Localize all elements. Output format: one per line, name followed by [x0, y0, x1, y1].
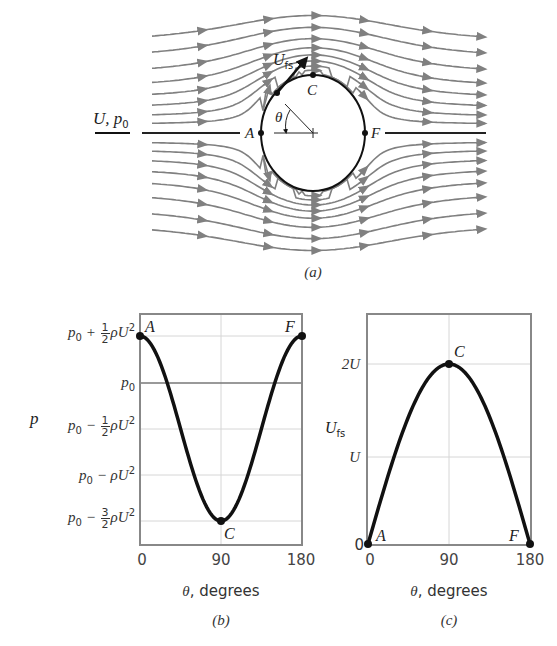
- pressure-curve: [140, 336, 302, 521]
- flow-direction-arrow-icon: [359, 56, 365, 58]
- flow-direction-arrow-icon: [263, 45, 269, 47]
- velocity-xtick-180: 180: [516, 551, 545, 569]
- velocity-xtick-0: 0: [365, 551, 375, 569]
- flow-direction-arrow-icon: [359, 32, 365, 33]
- point-a-marker: [258, 130, 264, 136]
- streamline-diagram: [0, 0, 557, 300]
- flow-direction-arrow-icon: [197, 154, 203, 155]
- pressure-xtick-90: 90: [211, 551, 230, 569]
- surface-point-marker: [274, 90, 280, 96]
- pressure-plot-grid: [140, 314, 302, 545]
- flow-direction-arrow-icon: [359, 19, 365, 20]
- pressure-ytick-0: p0 + 12ρU2: [68, 322, 135, 345]
- pressure-ytick-1: p0: [121, 374, 135, 393]
- flow-direction-arrow-icon: [422, 164, 428, 165]
- flow-direction-arrow-icon: [359, 179, 365, 184]
- flow-direction-arrow-icon: [263, 81, 269, 85]
- flow-direction-arrow-icon: [263, 56, 269, 58]
- flow-direction-arrow-icon: [197, 235, 203, 236]
- pressure-point-f-label: F: [285, 318, 295, 336]
- flow-direction-arrow-icon: [359, 198, 365, 201]
- flow-direction-arrow-icon: [422, 101, 428, 102]
- flow-direction-arrow-icon: [422, 219, 428, 220]
- flow-direction-arrow-icon: [197, 188, 203, 189]
- flow-direction-arrow-icon: [197, 77, 203, 78]
- velocity-ytick-u: U: [349, 449, 360, 466]
- flow-direction-arrow-icon: [422, 46, 428, 47]
- flow-direction-arrow-icon: [359, 74, 365, 77]
- flow-direction-arrow-icon: [422, 189, 428, 190]
- flow-direction-arrow-icon: [422, 112, 428, 113]
- flow-direction-arrow-icon: [263, 233, 269, 234]
- flow-direction-arrow-icon: [359, 246, 365, 247]
- flow-direction-arrow-icon: [422, 30, 428, 31]
- velocity-ytick-0: 0: [354, 536, 364, 554]
- velocity-point-c: [445, 360, 453, 368]
- velocity-axis-label: Ufs: [325, 420, 345, 439]
- velocity-point-f-label: F: [509, 527, 519, 545]
- pressure-axis-label: p: [30, 410, 39, 427]
- pressure-point-c: [217, 517, 225, 525]
- angle-label: θ: [275, 110, 282, 125]
- flow-direction-arrow-icon: [422, 76, 428, 77]
- flow-direction-arrow-icon: [422, 154, 428, 155]
- point-a-label: A: [245, 126, 254, 141]
- flow-direction-arrow-icon: [359, 45, 365, 47]
- caption-a: (a): [304, 264, 322, 281]
- flow-direction-arrow-icon: [422, 176, 428, 177]
- point-f-label: F: [371, 126, 380, 141]
- flow-direction-arrow-icon: [197, 62, 203, 63]
- flow-direction-arrow-icon: [197, 89, 203, 90]
- flow-direction-arrow-icon: [359, 207, 365, 209]
- point-f-marker: [362, 130, 368, 136]
- velocity-label: Ufs: [273, 52, 293, 71]
- flow-direction-arrow-icon: [422, 203, 428, 204]
- pressure-point-a: [136, 332, 144, 340]
- flow-direction-arrow-icon: [359, 232, 365, 233]
- flow-direction-arrow-icon: [359, 91, 365, 97]
- flow-direction-arrow-icon: [263, 180, 269, 184]
- streamline: [152, 197, 485, 227]
- flow-direction-arrow-icon: [197, 176, 203, 177]
- flow-direction-arrow-icon: [263, 208, 269, 210]
- streamline: [152, 16, 485, 38]
- flow-direction-arrow-icon: [263, 65, 269, 68]
- flow-direction-arrow-icon: [197, 101, 203, 102]
- flow-direction-arrow-icon: [197, 112, 203, 113]
- flow-direction-arrow-icon: [263, 246, 269, 247]
- velocity-plot-grid: [367, 314, 531, 545]
- pressure-xtick-0: 0: [137, 551, 147, 569]
- pressure-xtick-180: 180: [287, 551, 316, 569]
- flow-direction-arrow-icon: [422, 89, 428, 90]
- flow-direction-arrow-icon: [197, 219, 203, 220]
- freestream-label: U, p0: [93, 110, 129, 130]
- pressure-point-f: [298, 332, 306, 340]
- velocity-xtick-90: 90: [439, 551, 458, 569]
- velocity-plot-frame: [367, 314, 531, 545]
- flow-direction-arrow-icon: [197, 203, 203, 204]
- point-c-marker: [310, 72, 316, 78]
- point-c-label: C: [307, 83, 317, 98]
- flow-direction-arrow-icon: [263, 189, 269, 192]
- flow-direction-arrow-icon: [263, 19, 269, 20]
- pressure-point-a-label: A: [145, 318, 155, 336]
- streamline: [152, 39, 485, 69]
- pressure-plot-frame: [140, 314, 302, 545]
- flow-direction-arrow-icon: [263, 220, 269, 222]
- pressure-ytick-4: p0 − 32ρU2: [68, 507, 135, 530]
- velocity-point-a: [364, 540, 372, 548]
- velocity-point-a-label: A: [376, 527, 386, 545]
- caption-b: (b): [212, 612, 230, 629]
- pressure-ytick-2: p0 − 12ρU2: [68, 415, 135, 438]
- flow-direction-arrow-icon: [263, 32, 269, 33]
- pressure-point-c-label: C: [224, 525, 235, 543]
- velocity-ytick-2u: 2U: [342, 356, 360, 373]
- flow-direction-arrow-icon: [197, 164, 203, 165]
- flow-direction-arrow-icon: [197, 30, 203, 31]
- pressure-xlabel: θ, degrees: [182, 582, 259, 600]
- flow-direction-arrow-icon: [359, 66, 365, 69]
- flow-direction-arrow-icon: [422, 62, 428, 63]
- flow-direction-arrow-icon: [359, 169, 365, 175]
- flow-direction-arrow-icon: [263, 198, 269, 201]
- flow-direction-arrow-icon: [422, 235, 428, 236]
